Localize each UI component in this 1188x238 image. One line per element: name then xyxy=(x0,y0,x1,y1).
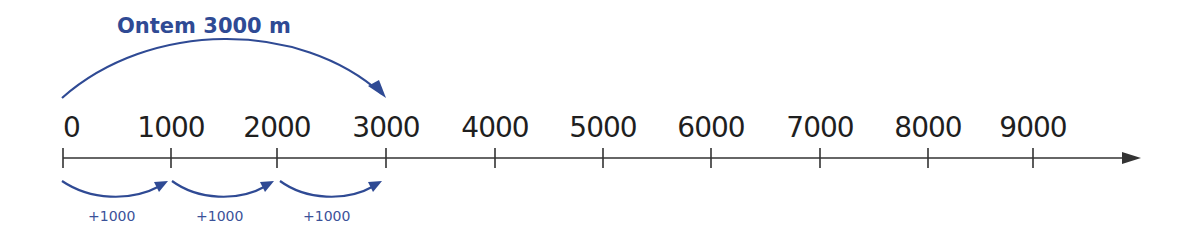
step-arrow xyxy=(172,181,266,197)
tick-label: 0 xyxy=(63,111,80,144)
step-label: +1000 xyxy=(196,208,243,224)
step-arrows xyxy=(62,181,374,197)
step-arrowhead-icon xyxy=(154,181,168,192)
step-arrow xyxy=(280,181,374,197)
tick-label: 6000 xyxy=(677,111,744,144)
step-arrow xyxy=(62,181,160,197)
tick-label: 3000 xyxy=(352,111,419,144)
axis-arrowhead-icon xyxy=(1122,152,1141,164)
big-jump-arrowhead-icon xyxy=(368,80,386,98)
number-line-diagram: Ontem 3000 m 0 1000 2000 3000 4000 5000 … xyxy=(0,0,1188,238)
big-jump-arrow xyxy=(62,39,382,98)
tick-label: 2000 xyxy=(243,111,310,144)
jump-title: Ontem 3000 m xyxy=(117,14,291,38)
tick-label: 1000 xyxy=(137,111,204,144)
tick-label: 9000 xyxy=(999,111,1066,144)
tick-label: 7000 xyxy=(786,111,853,144)
step-label: +1000 xyxy=(88,208,135,224)
tick-label: 8000 xyxy=(894,111,961,144)
tick-label: 4000 xyxy=(461,111,528,144)
step-arrowhead-icon xyxy=(260,181,274,192)
tick-labels: 0 1000 2000 3000 4000 5000 6000 7000 800… xyxy=(63,111,1067,144)
step-arrowhead-icon xyxy=(368,181,382,192)
tick-label: 5000 xyxy=(569,111,636,144)
step-label: +1000 xyxy=(303,208,350,224)
